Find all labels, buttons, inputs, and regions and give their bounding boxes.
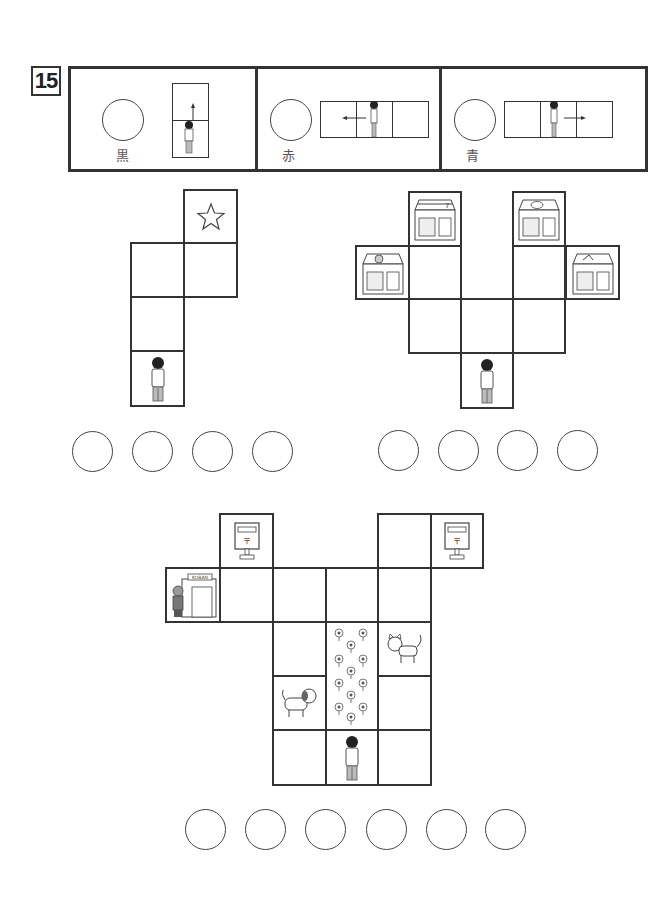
answer-circle[interactable] (252, 431, 293, 472)
grid-cell-start (130, 350, 185, 407)
grid-cell (408, 298, 462, 354)
grid-cell-flower-bed (325, 621, 379, 731)
grid-cell (219, 567, 274, 623)
color-circle-black (102, 99, 144, 141)
grid-cell-convenience-store: 7 (408, 191, 462, 247)
grid-cell-start (460, 352, 514, 409)
grid-cell (460, 298, 514, 354)
legend-panel-left: 赤 (255, 69, 439, 169)
dog-icon (279, 686, 321, 720)
grid-cell (377, 567, 432, 623)
question-number: 15 (31, 66, 61, 96)
grid-cell-dog (272, 675, 327, 731)
legend-panel-forward: 黒 (71, 69, 255, 169)
fish-shop-icon (515, 196, 563, 242)
star-icon (196, 202, 226, 232)
post-box-icon (442, 521, 472, 561)
person-with-right-arrow-icon (548, 99, 588, 139)
grid-cell-post-box (219, 513, 274, 569)
flower-shop-icon (569, 250, 617, 296)
grid-cell-post-box (430, 513, 484, 569)
grid-cell (377, 729, 432, 786)
grid-cell-star (183, 189, 238, 244)
answer-circle[interactable] (72, 431, 113, 472)
person-with-up-arrow-icon (183, 103, 197, 157)
bakery-shop-icon (359, 250, 407, 296)
legend-label: 青 (466, 145, 479, 164)
grid-cell (272, 729, 327, 786)
convenience-store-icon: 7 (411, 196, 459, 242)
answer-circle[interactable] (245, 809, 286, 850)
grid-cell (130, 242, 185, 298)
direction-legend: 黒 赤 青 (68, 66, 648, 172)
person-icon (148, 356, 168, 402)
answer-circle[interactable] (557, 430, 598, 471)
answer-circle[interactable] (192, 431, 233, 472)
person-icon (342, 735, 362, 781)
grid-cell-flower-shop (565, 245, 620, 300)
answer-circle[interactable] (132, 431, 173, 472)
person-icon (477, 358, 497, 404)
grid-cell (183, 242, 238, 298)
grid-cell (504, 101, 541, 138)
answer-circle[interactable] (485, 809, 526, 850)
legend-panel-right: 青 (439, 69, 645, 169)
svg-text:7: 7 (445, 202, 449, 210)
cat-icon (385, 632, 425, 666)
answer-circle[interactable] (426, 809, 467, 850)
grid-cell-fish-shop (512, 191, 566, 247)
answer-circle[interactable] (378, 430, 419, 471)
grid-cell-police-box: KOBAN (165, 567, 221, 623)
answer-circle[interactable] (497, 430, 538, 471)
grid-cell (408, 245, 462, 300)
grid-cell (512, 245, 566, 300)
grid-cell (272, 567, 327, 623)
grid-cell (377, 513, 432, 569)
grid-cell (325, 567, 379, 623)
svg-text:KOBAN: KOBAN (192, 575, 208, 580)
person-with-left-arrow-icon (342, 99, 382, 139)
grid-cell-start (325, 729, 379, 786)
grid-cell-cat (377, 621, 432, 677)
answer-circle[interactable] (185, 809, 226, 850)
grid-cell (377, 675, 432, 731)
grid-cell (392, 101, 429, 138)
answer-circle[interactable] (366, 809, 407, 850)
answer-circle[interactable] (438, 430, 479, 471)
grid-cell (130, 296, 185, 352)
police-box-icon: KOBAN (168, 571, 218, 619)
legend-label: 黒 (116, 145, 129, 164)
grid-cell (272, 621, 327, 677)
flower-bed-icon (330, 626, 374, 726)
color-circle-red (270, 99, 312, 141)
color-circle-blue (454, 99, 496, 141)
answer-circle[interactable] (305, 809, 346, 850)
post-box-icon (232, 521, 262, 561)
legend-label: 赤 (282, 145, 295, 164)
grid-cell-bakery (355, 245, 410, 300)
grid-cell (512, 298, 566, 354)
